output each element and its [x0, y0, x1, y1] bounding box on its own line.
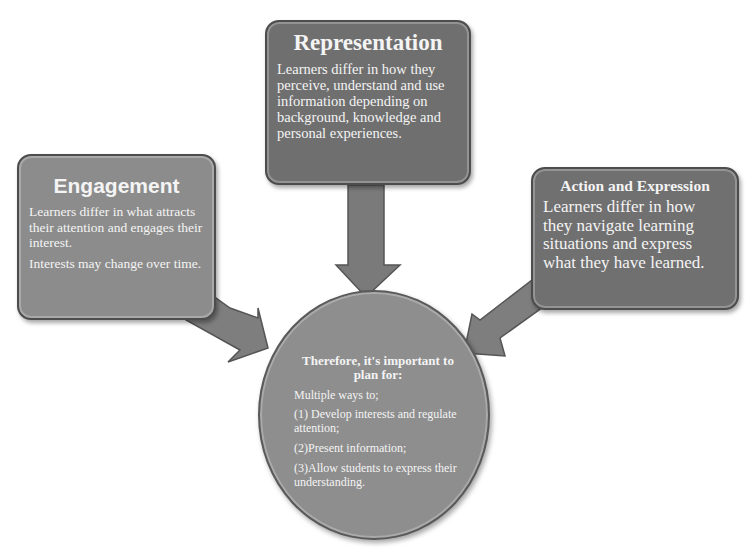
action-expression-title: Action and Expression	[543, 177, 727, 195]
plan-item: (3)Allow students to express their under…	[294, 462, 462, 490]
engagement-box: Engagement Learners differ in what attra…	[17, 154, 216, 320]
engagement-body-1: Learners differ in what attracts their a…	[29, 204, 204, 251]
representation-title: Representation	[277, 30, 459, 56]
plan-circle: Therefore, it's important to plan for: M…	[258, 290, 490, 540]
representation-body: Learners differ in how they perceive, un…	[277, 62, 459, 142]
engagement-body-2: Interests may change over time.	[29, 256, 204, 272]
action-expression-body: Learners differ in how they navigate lea…	[543, 198, 727, 273]
plan-item: (2)Present information;	[294, 442, 462, 456]
plan-item: Multiple ways to;	[294, 389, 462, 403]
action-expression-box: Action and Expression Learners differ in…	[531, 167, 739, 310]
plan-item: (1) Develop interests and regulate atten…	[294, 408, 462, 436]
plan-title: Therefore, it's important to plan for:	[294, 354, 462, 383]
representation-box: Representation Learners differ in how th…	[265, 20, 471, 185]
arrow-down-icon	[336, 185, 400, 297]
engagement-title: Engagement	[29, 174, 204, 198]
